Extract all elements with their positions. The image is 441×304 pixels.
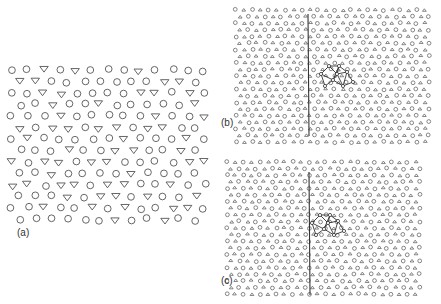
circle-marker bbox=[90, 136, 97, 143]
triangle-marker bbox=[288, 134, 292, 137]
triangle-marker bbox=[377, 181, 381, 184]
circle-marker bbox=[280, 133, 284, 137]
circle-marker bbox=[427, 120, 431, 124]
triangle-marker bbox=[287, 55, 291, 58]
circle-marker bbox=[247, 80, 251, 84]
triangle-marker bbox=[144, 126, 152, 132]
triangle-marker bbox=[304, 15, 308, 18]
circle-marker bbox=[401, 259, 405, 263]
circle-marker bbox=[366, 62, 370, 66]
triangle-marker bbox=[234, 279, 238, 282]
circle-marker bbox=[384, 286, 388, 290]
circle-marker bbox=[316, 8, 320, 12]
triangle-marker bbox=[324, 9, 328, 12]
triangle-marker bbox=[275, 128, 279, 131]
circle-marker bbox=[356, 174, 360, 178]
circle-marker bbox=[335, 285, 339, 289]
triangle-marker bbox=[259, 114, 263, 117]
circle-marker bbox=[353, 193, 357, 197]
circle-marker bbox=[274, 212, 278, 216]
triangle-marker bbox=[381, 213, 385, 216]
triangle-marker bbox=[385, 15, 389, 18]
triangle-marker bbox=[354, 120, 358, 123]
circle-marker bbox=[271, 180, 275, 184]
circle-marker bbox=[389, 292, 393, 296]
circle-marker bbox=[65, 170, 72, 177]
triangle-marker bbox=[243, 74, 247, 77]
circle-marker bbox=[234, 61, 238, 65]
circle-marker bbox=[290, 239, 294, 243]
triangle-marker bbox=[64, 127, 72, 133]
circle-marker bbox=[175, 170, 182, 177]
triangle-marker bbox=[279, 286, 283, 289]
triangle-marker bbox=[354, 107, 358, 110]
triangle-marker bbox=[402, 81, 406, 84]
circle-marker bbox=[316, 127, 320, 131]
triangle-marker bbox=[102, 159, 110, 165]
circle-marker bbox=[242, 213, 246, 217]
circle-marker bbox=[186, 113, 193, 120]
circle-marker bbox=[312, 14, 316, 18]
triangle-marker bbox=[385, 28, 389, 31]
circle-marker bbox=[257, 199, 261, 203]
triangle-marker bbox=[327, 259, 331, 262]
triangle-marker bbox=[296, 194, 300, 197]
triangle-marker bbox=[250, 213, 254, 216]
triangle-marker bbox=[324, 100, 328, 103]
circle-marker bbox=[267, 34, 271, 38]
circle-marker bbox=[299, 114, 303, 118]
circle-marker bbox=[385, 260, 389, 264]
circle-marker bbox=[55, 136, 62, 143]
triangle-marker bbox=[414, 252, 418, 255]
circle-marker bbox=[382, 139, 386, 143]
triangle-marker bbox=[321, 68, 325, 71]
circle-marker bbox=[401, 219, 405, 223]
triangle-marker bbox=[360, 168, 364, 171]
circle-marker bbox=[185, 67, 192, 74]
circle-marker bbox=[79, 170, 86, 177]
triangle-marker bbox=[275, 48, 279, 51]
circle-marker bbox=[275, 253, 279, 257]
circle-marker bbox=[152, 181, 159, 188]
circle-marker bbox=[300, 47, 304, 51]
triangle-marker bbox=[331, 265, 335, 268]
triangle-marker bbox=[354, 28, 358, 31]
triangle-marker bbox=[291, 114, 295, 117]
triangle-marker bbox=[373, 74, 377, 77]
triangle-marker bbox=[344, 181, 348, 184]
circle-marker bbox=[233, 48, 237, 52]
circle-marker bbox=[402, 286, 406, 290]
circle-marker bbox=[381, 100, 385, 104]
triangle-marker bbox=[418, 133, 422, 136]
triangle-marker bbox=[238, 55, 242, 58]
circle-marker bbox=[328, 133, 332, 137]
circle-marker bbox=[361, 80, 365, 84]
triangle-marker bbox=[287, 108, 291, 111]
circle-marker bbox=[302, 206, 306, 210]
circle-marker bbox=[316, 140, 320, 144]
triangle-marker bbox=[324, 48, 328, 51]
circle-marker bbox=[336, 179, 340, 183]
triangle-marker bbox=[312, 259, 316, 262]
triangle-marker bbox=[276, 141, 280, 144]
triangle-marker bbox=[243, 48, 247, 51]
circle-marker bbox=[319, 180, 323, 184]
triangle-marker bbox=[341, 88, 345, 91]
triangle-marker bbox=[8, 184, 16, 190]
triangle-marker bbox=[402, 120, 406, 123]
triangle-marker bbox=[246, 246, 250, 249]
triangle-marker bbox=[419, 41, 423, 44]
circle-marker bbox=[263, 54, 267, 58]
triangle-marker bbox=[258, 141, 262, 144]
circle-marker bbox=[280, 41, 284, 45]
triangle-marker bbox=[364, 174, 368, 177]
circle-marker bbox=[385, 273, 389, 277]
circle-marker bbox=[402, 273, 406, 277]
circle-marker bbox=[246, 108, 250, 112]
triangle-marker bbox=[249, 240, 253, 243]
circle-marker bbox=[43, 183, 50, 190]
triangle-marker bbox=[348, 280, 352, 283]
triangle-marker bbox=[250, 227, 254, 230]
triangle-marker bbox=[340, 114, 344, 117]
circle-marker bbox=[200, 136, 207, 143]
